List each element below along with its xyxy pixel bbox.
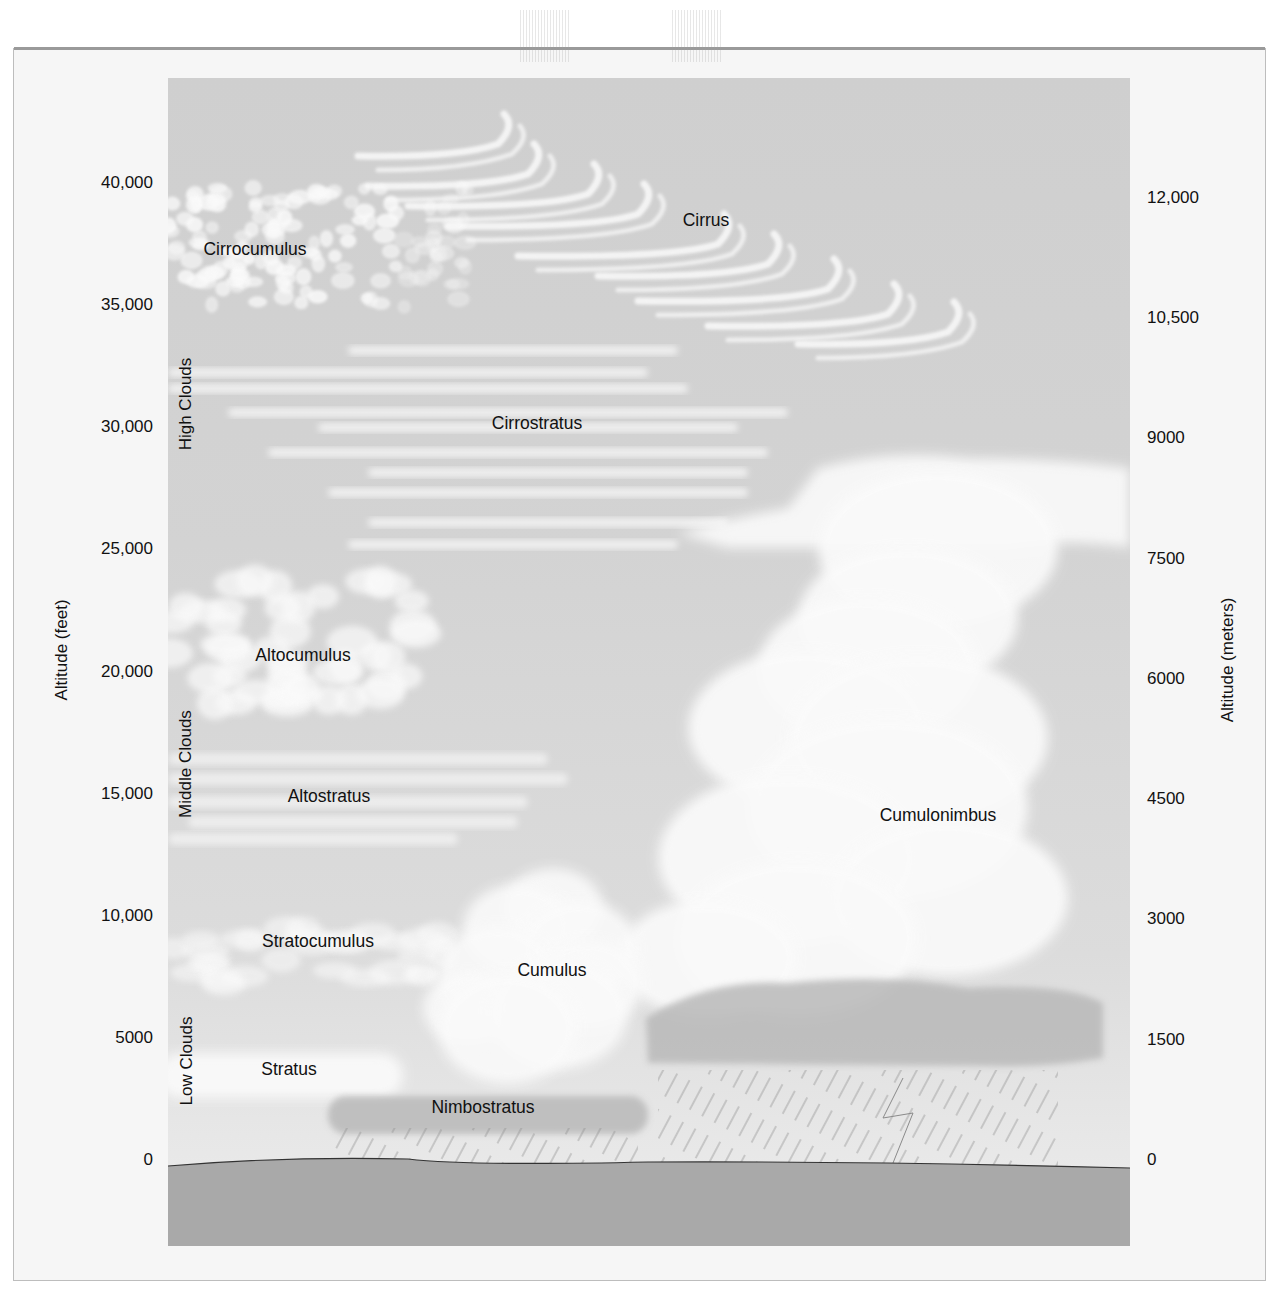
altostratus-layer [168,773,568,785]
cirrocumulus-puff [376,214,399,229]
cirrostratus-streak [168,384,688,393]
cirrostratus-cloud [168,346,788,549]
cirrus-wisp [378,126,524,170]
band-label-high-clouds: High Clouds [176,349,196,459]
stratocumulus-puff [202,972,246,996]
cirrocumulus-puff [437,201,451,215]
cloud-label-cirrocumulus: Cirrocumulus [203,239,306,260]
cirrocumulus-puff [331,272,355,289]
altocumulus-puff [236,564,273,596]
cirrocumulus-puff [447,291,469,307]
cirrocumulus-puff [373,184,388,195]
cirrostratus-streak [368,468,748,477]
cirrocumulus-puff [277,209,293,226]
cirrocumulus-puff [284,194,303,209]
cirrocumulus-puff [424,200,436,217]
cirrocumulus-puff [168,197,180,211]
cirrocumulus-puff [335,224,355,235]
cirrocumulus-puff [260,195,280,206]
right-axis-tick-label: 3000 [1147,909,1185,929]
left-axis-tick-label: 30,000 [101,417,153,437]
altocumulus-puff [390,619,441,648]
ground-surface [168,1158,1130,1246]
band-label-low-clouds: Low Clouds [177,1011,197,1111]
altocumulus-puff [200,633,252,655]
right-axis-tick-label: 1500 [1147,1030,1185,1050]
cirrostratus-streak [168,368,648,377]
cirrocumulus-puff [307,184,326,200]
ground [168,1158,1130,1246]
cirrocumulus-puff [205,196,227,211]
left-axis-tick-label: 0 [144,1150,153,1170]
altostratus-layer [168,833,458,845]
cirrocumulus-puff [414,242,436,255]
cirrus-wisp [708,284,899,326]
cirrocumulus-puff [394,231,414,247]
cumulonimbus-base [646,979,1103,1066]
right-axis-tick-label: 4500 [1147,789,1185,809]
altocumulus-puff [371,641,406,672]
cirrocumulus-puff [354,203,375,219]
altocumulus-puff [284,673,321,702]
cirrostratus-streak [348,346,678,355]
cirrocumulus-puff [186,275,209,288]
cirrocumulus-puff [248,296,267,307]
cirrocumulus-puff [373,228,395,244]
altocumulus-puff [357,678,405,709]
cirrus-wisp [358,114,509,156]
cumulus-puff [438,972,578,1084]
left-axis-tick-label: 35,000 [101,295,153,315]
right-axis-tick-label: 12,000 [1147,188,1199,208]
right-axis-tick-label: 9000 [1147,428,1185,448]
altocumulus-puff [187,663,234,693]
cirrocumulus-puff [168,240,185,254]
cloud-label-cirrus: Cirrus [683,210,730,231]
cirrocumulus-puff [176,212,194,226]
cirrocumulus-puff [205,296,218,313]
cirrocumulus-puff [398,272,420,288]
cirrocumulus-puff [398,300,411,314]
cirrocumulus-puff [295,268,311,285]
left-axis-tick-label: 15,000 [101,784,153,804]
cirrocumulus-puff [454,257,469,269]
cloud-label-cirrostratus: Cirrostratus [492,413,582,434]
left-axis-tick-label: 40,000 [101,173,153,193]
left-axis-tick-label: 10,000 [101,906,153,926]
cloud-label-cumulonimbus: Cumulonimbus [880,805,997,826]
cirrocumulus-puff [454,235,476,250]
cirrocumulus-puff [382,244,400,259]
cumulonimbus-cloud [618,470,1103,1066]
cirrocumulus-puff [370,273,391,289]
altocumulus-puff [232,680,279,705]
right-axis-tick-label: 6000 [1147,669,1185,689]
cloud-label-cumulus: Cumulus [517,960,586,981]
stratocumulus-cloud [168,916,459,996]
cirrocumulus-puff [230,268,250,281]
cirrostratus-streak [268,448,768,457]
cirrocumulus-puff [328,249,341,262]
cloud-label-altocumulus: Altocumulus [255,645,350,666]
left-axis-tick-label: 5000 [115,1028,153,1048]
stratocumulus-puff [405,964,440,982]
cloud-label-stratocumulus: Stratocumulus [262,931,374,952]
cirrostratus-streak [348,540,678,549]
cirrocumulus-puff [249,201,263,213]
cirrocumulus-puff [320,230,333,247]
print-artifact [672,10,722,62]
cirrocumulus-puff [427,223,442,235]
cirrocumulus-puff [358,183,370,194]
cumulonimbus-rain [658,1070,1058,1170]
cirrocumulus-puff [455,181,468,196]
altocumulus-puff [264,594,301,621]
left-axis-tick-label: 20,000 [101,662,153,682]
cirrocumulus-puff [446,278,469,290]
cirrocumulus-puff [364,292,378,308]
cirrocumulus-puff [205,221,218,234]
right-axis-tick-label: 10,500 [1147,308,1199,328]
cirrocumulus-puff [244,180,261,196]
cirrocumulus-puff [312,255,326,272]
stratocumulus-puff [261,948,300,972]
cirrocumulus-puff [208,183,227,194]
stratocumulus-puff [340,969,391,987]
cirrocumulus-puff [276,275,290,291]
